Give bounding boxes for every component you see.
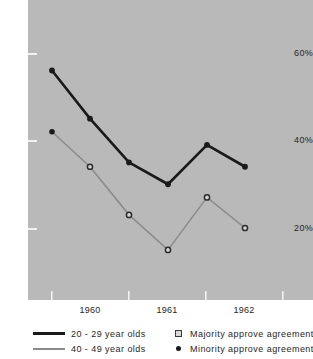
y-tick-mark-20: [28, 228, 37, 230]
series-line-20-29: [49, 68, 248, 188]
legend-series-column: 20 - 29 year olds 40 - 49 year olds: [33, 326, 146, 356]
legend-label-minority: Minority approve agreement: [190, 344, 313, 354]
plot-svg: [28, 0, 313, 300]
legend-line-swatch-20-29: [33, 332, 65, 335]
y-tick-label-40: 40%: [279, 135, 313, 145]
x-tick-mark: [282, 291, 284, 300]
filled-dot-icon: [172, 346, 184, 351]
open-circle-icon: [172, 330, 184, 337]
legend-line-swatch-40-49: [33, 348, 65, 350]
legend-item-minority: Minority approve agreement: [172, 341, 313, 356]
data-point-marker: [165, 247, 170, 252]
legend-label-majority: Majority approve agreement: [190, 329, 313, 339]
x-tick-mark: [128, 291, 130, 300]
plot-area: [28, 0, 313, 300]
x-tick-mark: [51, 291, 53, 300]
legend-item-40-49: 40 - 49 year olds: [33, 341, 146, 356]
data-point-marker: [87, 116, 93, 122]
y-tick-label-20: 20%: [279, 223, 313, 233]
data-point-marker: [165, 181, 171, 187]
series-polyline: [52, 71, 245, 185]
data-point-marker: [126, 159, 132, 165]
series-line-40-49: [49, 129, 247, 253]
chart-figure: 60% 40% 20% 1960 1961 1962 20 - 29 year …: [0, 0, 313, 359]
x-tick-label-1961: 1961: [147, 305, 187, 315]
data-point-marker: [126, 212, 131, 217]
data-point-marker: [204, 195, 209, 200]
data-point-marker: [242, 164, 248, 170]
data-point-marker: [49, 129, 55, 135]
data-point-marker: [49, 68, 55, 74]
legend-label-20-29: 20 - 29 year olds: [71, 329, 146, 339]
data-point-marker: [242, 225, 247, 230]
chart-legend: 20 - 29 year olds 40 - 49 year olds Majo…: [0, 326, 313, 359]
y-tick-mark-40: [28, 140, 37, 142]
x-tick-mark: [205, 291, 207, 300]
x-tick-label-1962: 1962: [224, 305, 264, 315]
legend-item-20-29: 20 - 29 year olds: [33, 326, 146, 341]
data-point-marker: [204, 142, 210, 148]
y-tick-mark-60: [28, 53, 37, 55]
y-tick-label-60: 60%: [279, 48, 313, 58]
legend-item-majority: Majority approve agreement: [172, 326, 313, 341]
x-tick-label-1960: 1960: [70, 305, 110, 315]
legend-label-40-49: 40 - 49 year olds: [71, 344, 146, 354]
legend-marker-column: Majority approve agreement Minority appr…: [172, 326, 313, 356]
data-point-marker: [87, 164, 92, 169]
